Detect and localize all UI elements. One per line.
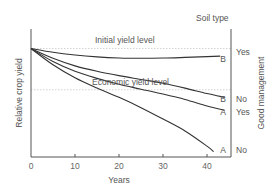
soil-type-label: A bbox=[220, 107, 226, 117]
management-label: Yes bbox=[236, 107, 250, 117]
x-tick-label: 40 bbox=[202, 161, 212, 171]
yield-decline-chart: 010203040 Initial yield level Economic y… bbox=[0, 0, 275, 194]
x-tick-label: 30 bbox=[158, 161, 168, 171]
right-axis-label: Good management bbox=[256, 56, 266, 129]
soil-type-label: B bbox=[220, 94, 226, 104]
soil-type-label: B bbox=[220, 54, 226, 64]
management-label: No bbox=[236, 94, 247, 104]
management-label: Yes bbox=[236, 47, 250, 57]
x-tick-label: 0 bbox=[29, 161, 34, 171]
soil-type-label: A bbox=[220, 145, 226, 155]
soil-type-header: Soil type bbox=[196, 13, 229, 23]
x-tick-label: 10 bbox=[70, 161, 80, 171]
y-axis-label: Relative crop yield bbox=[14, 58, 24, 128]
x-axis-label: Years bbox=[108, 175, 129, 185]
management-label: No bbox=[236, 145, 247, 155]
x-tick-label: 20 bbox=[114, 161, 124, 171]
economic-yield-label: Economic yield level bbox=[92, 77, 169, 87]
initial-yield-label: Initial yield level bbox=[95, 35, 155, 45]
curve-soil-b-mgmt-yes bbox=[31, 49, 220, 59]
